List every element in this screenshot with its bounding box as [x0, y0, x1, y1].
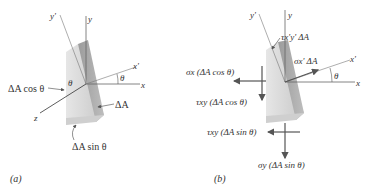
y-prime-label: y'	[249, 10, 257, 20]
caption-a: (a)	[10, 173, 22, 185]
y-label: y	[87, 14, 92, 24]
panel-a: y' y x' x z θ θ ΔA cos θ ΔA ΔA sin θ (a)	[8, 11, 145, 185]
panel-b: y' y x' x θ σx' ΔA τx'y' ΔA σx (ΔA cos θ…	[186, 10, 360, 185]
x-prime-label: x'	[349, 54, 357, 64]
area-cos-leader	[48, 88, 64, 90]
y-label: y	[287, 10, 292, 20]
z-label: z	[33, 113, 38, 123]
area-label: ΔA	[115, 99, 129, 110]
x-label: x	[355, 78, 360, 88]
face-angle-label: θ	[68, 78, 73, 88]
sigma-y-sin-label: σy (ΔA sin θ)	[258, 160, 305, 170]
sigma-x-cos-label: σx (ΔA cos θ)	[186, 67, 234, 77]
angle-arc	[117, 74, 118, 84]
y-prime-label: y'	[49, 11, 57, 21]
tau-xy-cos-label: τxy (ΔA cos θ)	[196, 97, 247, 107]
stress-transformation-diagram: y' y x' x z θ θ ΔA cos θ ΔA ΔA sin θ (a)…	[0, 0, 367, 192]
caption-b: (b)	[214, 173, 226, 185]
angle-theta-label: θ	[334, 71, 339, 81]
area-sin-leader	[72, 125, 76, 140]
x-label: x	[140, 80, 145, 90]
tau-xy-prime-label: τx'y' ΔA	[281, 32, 310, 42]
angle-arc	[330, 68, 332, 82]
area-cos-label: ΔA cos θ	[8, 83, 44, 94]
tau-xy-sin-label: τxy (ΔA sin θ)	[207, 127, 257, 137]
area-sin-label: ΔA sin θ	[72, 141, 107, 152]
x-prime-label: x'	[132, 61, 140, 71]
sigma-x-prime-label: σx' ΔA	[294, 56, 318, 66]
angle-theta-label: θ	[120, 73, 125, 83]
